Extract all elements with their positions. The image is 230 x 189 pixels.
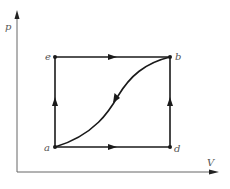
axes: p V bbox=[5, 10, 219, 175]
arrow-up-icon bbox=[52, 97, 58, 106]
arrow-right-icon bbox=[108, 144, 117, 150]
point-e bbox=[53, 55, 57, 59]
state-points bbox=[53, 55, 172, 149]
arrow-right-icon bbox=[108, 54, 117, 60]
x-axis-arrow-icon bbox=[209, 170, 219, 175]
point-b bbox=[168, 55, 172, 59]
direction-arrows bbox=[52, 54, 173, 150]
process-paths bbox=[55, 57, 170, 147]
label-e: e bbox=[45, 51, 51, 62]
x-axis-label: V bbox=[207, 157, 216, 168]
pv-diagram: p V e b a bbox=[0, 0, 230, 189]
y-axis-arrow-icon bbox=[15, 10, 20, 19]
label-a: a bbox=[44, 142, 50, 153]
point-labels: e b a d bbox=[44, 51, 181, 154]
label-d: d bbox=[174, 143, 180, 154]
point-d bbox=[168, 145, 172, 149]
y-axis-label: p bbox=[5, 21, 12, 32]
point-a bbox=[53, 145, 57, 149]
label-b: b bbox=[175, 51, 181, 62]
path-b-a-curve bbox=[55, 57, 170, 147]
arrow-up-icon bbox=[167, 97, 173, 106]
